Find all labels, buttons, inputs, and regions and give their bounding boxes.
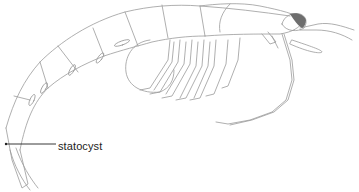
antennal-scale: [290, 40, 322, 53]
shrimp-illustration: [0, 0, 359, 192]
shrimp-diagram: statocyst: [0, 0, 359, 192]
carapace: [200, 4, 304, 36]
abdomen-dorsal-outline: [6, 5, 290, 128]
eye-icon: [290, 13, 306, 28]
abdomen-ventral-outline: [20, 36, 205, 150]
statocyst-label: statocyst: [58, 140, 102, 152]
statocyst-dot: [5, 143, 7, 145]
gill-lobe: [126, 40, 174, 92]
thoracic-legs: [140, 38, 240, 100]
antennules: [300, 23, 354, 30]
telson: [6, 128, 28, 188]
uropod: [10, 148, 38, 190]
